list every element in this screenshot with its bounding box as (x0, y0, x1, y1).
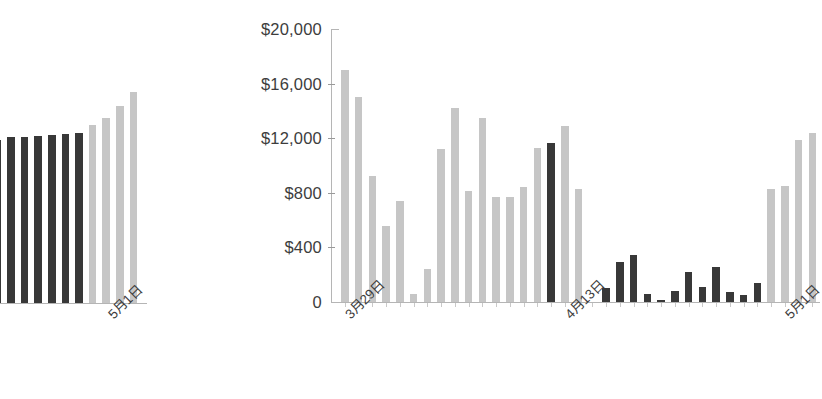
y-axis-tick-label: $16,000 (261, 76, 322, 93)
bar (89, 125, 97, 303)
x-axis-tick-mark (441, 303, 442, 307)
bar (506, 197, 514, 302)
x-axis-tick-mark (702, 303, 703, 307)
bar (767, 189, 775, 302)
bar (7, 137, 15, 303)
bar (699, 287, 707, 302)
bar (396, 201, 404, 302)
x-axis-tick-mark (647, 303, 648, 307)
x-axis-tick-mark (716, 303, 717, 307)
bar (116, 106, 124, 303)
bar (726, 292, 734, 302)
x-axis-tick-mark (606, 303, 607, 307)
bar (630, 255, 638, 302)
x-axis-tick-mark (771, 303, 772, 307)
x-axis-tick-mark (689, 303, 690, 307)
left-plot-area (0, 20, 151, 303)
y-axis-tick-label: $800 (284, 185, 322, 202)
x-axis-tick-mark (510, 303, 511, 307)
bar (341, 70, 349, 302)
bar (561, 126, 569, 302)
bar (754, 283, 762, 302)
bar (48, 135, 56, 303)
bar (492, 197, 500, 302)
bar (21, 137, 29, 303)
bar (410, 294, 418, 302)
bar (712, 267, 720, 302)
x-axis-tick-mark (744, 303, 745, 307)
x-axis-tick-mark (620, 303, 621, 307)
bar (671, 291, 679, 302)
bar (795, 140, 803, 302)
x-axis-tick-mark (524, 303, 525, 307)
y-axis-labels: $20,000$16,000$12,000$800$4000 (225, 0, 322, 320)
bar (781, 186, 789, 302)
bar (130, 92, 138, 303)
x-axis-tick-mark (634, 303, 635, 307)
x-axis-tick-mark (414, 303, 415, 307)
y-axis-tick-mark (328, 84, 335, 85)
x-axis-tick-mark (757, 303, 758, 307)
y-axis-tick-label: $12,000 (261, 130, 322, 147)
x-axis-tick-mark (386, 303, 387, 307)
bar (534, 148, 542, 302)
y-axis-tick-label: $400 (284, 239, 322, 256)
main-bar-chart: $20,000$16,000$12,000$800$4000 3月29日4月13… (225, 0, 822, 399)
x-axis-tick-mark (661, 303, 662, 307)
bar (740, 295, 748, 302)
bar (437, 149, 445, 302)
x-axis-tick-mark (427, 303, 428, 307)
y-axis-tick-mark (328, 138, 335, 139)
bar (102, 118, 110, 303)
x-axis-tick-mark (592, 303, 593, 307)
y-axis-tick-label: 0 (313, 294, 322, 311)
bar (809, 133, 817, 302)
x-axis-tick-mark (482, 303, 483, 307)
x-axis-tick-mark (455, 303, 456, 307)
bar (75, 133, 83, 303)
y-axis-tick-mark (328, 247, 335, 248)
plot-area (335, 29, 820, 302)
bar (575, 189, 583, 302)
left-cropped-bar-chart: 5月1日 (0, 0, 161, 399)
x-axis-labels: 3月29日4月13日5月1日 (335, 312, 822, 392)
y-axis-line (331, 29, 332, 303)
x-axis-tick-mark (469, 303, 470, 307)
bar (62, 134, 70, 303)
bar (451, 108, 459, 302)
x-axis-tick-mark (537, 303, 538, 307)
x-axis-tick-mark (372, 303, 373, 307)
bar (465, 191, 473, 302)
left-x-axis-labels: 5月1日 (0, 312, 161, 392)
x-axis-tick-mark (730, 303, 731, 307)
chart-canvas: 5月1日 $20,000$16,000$12,000$800$4000 3月29… (0, 0, 822, 399)
bar (685, 272, 693, 302)
x-axis-tick-mark (675, 303, 676, 307)
bar (616, 262, 624, 302)
bar (34, 136, 42, 303)
x-axis-tick-mark (496, 303, 497, 307)
x-axis-tick-mark (551, 303, 552, 307)
bar (657, 300, 665, 302)
bar (355, 97, 363, 302)
y-axis-tick-label: $20,000 (261, 21, 322, 38)
bar (644, 294, 652, 302)
x-axis-tick-mark (400, 303, 401, 307)
bar (424, 269, 432, 302)
y-axis-tick-mark (328, 193, 335, 194)
bar (479, 118, 487, 302)
bar (547, 143, 555, 302)
bar (0, 140, 1, 303)
x-axis-tick-mark (812, 303, 813, 307)
bar (520, 187, 528, 302)
